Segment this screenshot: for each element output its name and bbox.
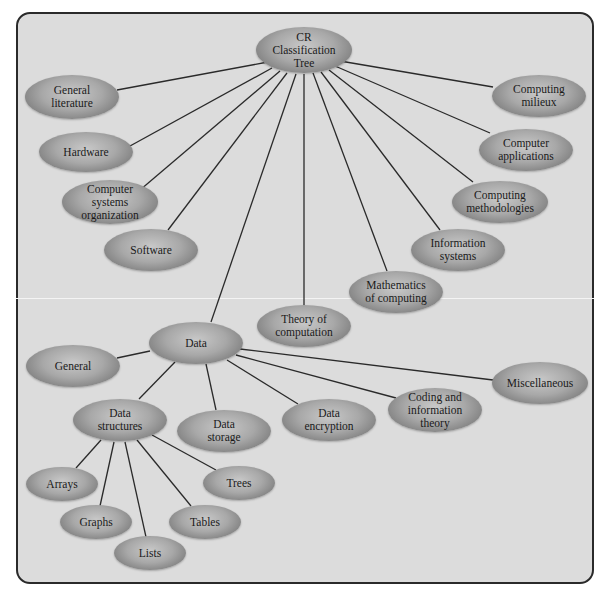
node-label: Graphs (79, 516, 112, 529)
node-computing-milieux[interactable]: Computing milieux (492, 75, 586, 117)
node-trees[interactable]: Trees (203, 466, 275, 500)
node-data-encryption[interactable]: Data encryption (282, 399, 376, 441)
node-miscellaneous[interactable]: Miscellaneous (492, 362, 588, 404)
node-graphs[interactable]: Graphs (60, 505, 132, 539)
edge-data-structures-to-arrays (76, 440, 101, 468)
node-label: Data storage (207, 418, 240, 444)
edge-root-to-mathematics-of-computing (313, 73, 387, 271)
node-label: Computer systems organization (81, 183, 138, 222)
node-information-systems[interactable]: Information systems (411, 229, 505, 271)
edge-data-to-miscellaneous (240, 349, 493, 380)
node-data-storage[interactable]: Data storage (177, 410, 271, 452)
node-label: Software (130, 244, 172, 257)
node-general-literature[interactable]: General literature (25, 75, 119, 119)
node-data-structures[interactable]: Data structures (73, 399, 167, 441)
node-coding-and-information-theory[interactable]: Coding and information theory (388, 388, 482, 432)
node-software[interactable]: Software (104, 229, 198, 271)
node-data[interactable]: Data (149, 322, 243, 364)
node-label: Arrays (46, 478, 77, 491)
node-label: Computer applications (498, 137, 554, 163)
edge-root-to-computing-methodologies (329, 70, 473, 182)
edge-root-to-computing-milieux (340, 61, 493, 87)
node-label: Data encryption (304, 407, 353, 433)
edge-data-structures-to-tables (137, 440, 191, 506)
edge-root-to-information-systems (321, 72, 440, 230)
node-label: Data (185, 337, 207, 350)
node-label: Information systems (431, 237, 486, 263)
edge-data-structures-to-graphs (100, 442, 114, 506)
node-label: CR Classification Tree (272, 31, 335, 70)
edge-root-to-computer-systems-organization (140, 71, 280, 190)
edge-root-to-general-literature (117, 62, 268, 90)
node-label: Trees (226, 477, 251, 490)
node-label: Data structures (98, 407, 143, 433)
node-label: Mathematics of computing (365, 279, 427, 305)
node-label: Computing methodologies (466, 189, 534, 215)
edge-data-to-general (117, 351, 150, 358)
edge-root-to-computer-applications (335, 66, 490, 133)
node-computer-applications[interactable]: Computer applications (479, 129, 573, 171)
node-computing-methodologies[interactable]: Computing methodologies (452, 181, 548, 223)
edge-data-to-data-storage (206, 364, 216, 410)
node-label: General (55, 360, 91, 373)
node-label: Theory of computation (275, 313, 333, 339)
node-tables[interactable]: Tables (169, 505, 241, 539)
node-label: General literature (51, 84, 93, 110)
node-lists[interactable]: Lists (114, 536, 186, 570)
node-label: Hardware (63, 146, 108, 159)
edge-data-to-coding-and-information-theory (236, 355, 396, 398)
node-theory-of-computation[interactable]: Theory of computation (257, 305, 351, 347)
node-computer-systems-organization[interactable]: Computer systems organization (62, 180, 158, 224)
node-root[interactable]: CR Classification Tree (256, 27, 352, 73)
edge-data-to-data-structures (139, 362, 175, 399)
node-label: Lists (139, 547, 161, 560)
node-label: Miscellaneous (507, 377, 573, 390)
node-arrays[interactable]: Arrays (26, 467, 98, 501)
edge-data-to-data-encryption (227, 360, 298, 404)
node-hardware[interactable]: Hardware (39, 132, 133, 172)
node-label: Computing milieux (513, 83, 565, 109)
edge-root-to-hardware (130, 68, 272, 146)
edge-root-to-data (211, 74, 296, 322)
node-label: Tables (190, 516, 220, 529)
node-mathematics-of-computing[interactable]: Mathematics of computing (349, 271, 443, 313)
node-general[interactable]: General (26, 345, 120, 387)
node-label: Coding and information theory (408, 391, 462, 430)
